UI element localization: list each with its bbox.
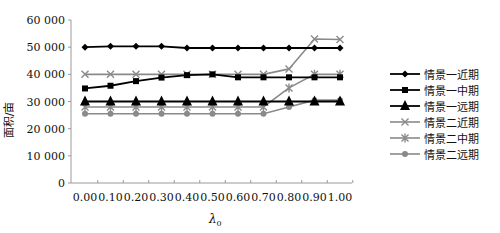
diamond-marker-icon	[390, 68, 420, 80]
legend-item: 情景二远期	[390, 146, 500, 162]
triangle-marker-icon	[390, 100, 420, 112]
legend: 情景一近期情景一中期情景一远期情景二近期情景二中期情景二远期	[390, 66, 500, 162]
x-tick-label: 0.80	[277, 191, 302, 204]
x-tick-label: 0.90	[302, 191, 327, 204]
legend-label: 情景二近期	[424, 114, 479, 130]
y-tick-label: 20 000	[27, 123, 66, 136]
y-tick-label: 60 000	[27, 14, 66, 27]
y-tick-label: 50 000	[27, 41, 66, 54]
legend-label: 情景二中期	[424, 130, 479, 146]
y-tick-label: 30 000	[27, 96, 66, 109]
x-tick-label: 0.40	[175, 191, 200, 204]
x-tick-label: 0.10	[98, 191, 123, 204]
series-2	[80, 96, 345, 106]
x-tick-label: 0.20	[124, 191, 149, 204]
x-tick-label: 0.30	[149, 191, 174, 204]
x-tick-label: 0.50	[200, 191, 225, 204]
asterisk-marker-icon	[390, 132, 420, 144]
x-tick-label: 0.00	[73, 191, 98, 204]
x-marker-icon	[390, 116, 420, 128]
legend-item: 情景一近期	[390, 66, 500, 82]
x-tick-label: 0.70	[251, 191, 276, 204]
y-axis-label: 面积/亩	[0, 102, 16, 139]
x-axis-label-symbol: λ	[209, 212, 217, 226]
y-tick-label: 40 000	[27, 68, 66, 81]
legend-item: 情景一远期	[390, 98, 500, 114]
x-axis-label: λ0	[209, 212, 222, 228]
legend-label: 情景二远期	[424, 146, 479, 162]
legend-item: 情景二中期	[390, 130, 500, 146]
y-tick-label: 10 000	[27, 150, 66, 163]
legend-label: 情景一远期	[424, 98, 479, 114]
legend-label: 情景一中期	[424, 82, 479, 98]
legend-item: 情景二近期	[390, 114, 500, 130]
legend-label: 情景一近期	[424, 66, 479, 82]
y-tick-label: 0	[58, 177, 65, 190]
x-tick-label: 0.60	[226, 191, 251, 204]
x-tick-label: 1.00	[328, 191, 353, 204]
series-layer	[80, 36, 345, 117]
square-marker-icon	[390, 84, 420, 96]
legend-item: 情景一中期	[390, 82, 500, 98]
circle-marker-icon	[390, 148, 420, 160]
